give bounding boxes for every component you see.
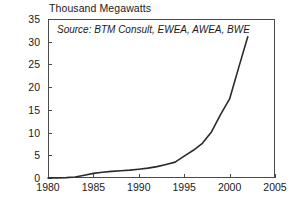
data-series-line	[48, 19, 275, 178]
chart-figure: Thousand Megawatts Source: BTM Consult, …	[0, 0, 291, 202]
x-tick-mark	[275, 174, 276, 178]
